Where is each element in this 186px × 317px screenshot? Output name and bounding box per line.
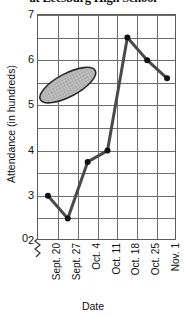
y-axis-title: Attendance (in hundreds) bbox=[5, 44, 17, 204]
x-axis-labels: Sept. 20Sept. 27Oct. 4Oct. 11Oct. 18Oct.… bbox=[37, 243, 176, 303]
chart-root: at Leesburg High School 7 6 5 4 3 2 Atte… bbox=[0, 0, 186, 317]
x-tick-label: Oct. 4 bbox=[91, 243, 102, 270]
x-tick-label: Oct. 25 bbox=[150, 243, 161, 275]
x-tick-label: Nov. 1 bbox=[170, 243, 181, 271]
data-point bbox=[144, 57, 150, 63]
y-tick-label-2: 2 bbox=[4, 234, 34, 246]
data-point bbox=[65, 215, 71, 221]
data-series-layer bbox=[38, 15, 176, 240]
x-tick-label: Oct. 18 bbox=[130, 243, 141, 275]
data-point bbox=[85, 159, 91, 165]
x-axis-title: Date bbox=[0, 300, 186, 312]
y-tick-label-7: 7 bbox=[4, 8, 34, 20]
data-point bbox=[45, 193, 51, 199]
data-point bbox=[124, 35, 130, 41]
x-tick-label: Oct. 11 bbox=[111, 243, 122, 275]
series-line bbox=[48, 38, 167, 219]
x-tick-label: Sept. 27 bbox=[71, 243, 82, 280]
data-point bbox=[105, 148, 111, 154]
plot-area bbox=[37, 14, 176, 240]
origin-label: 0 bbox=[22, 232, 28, 244]
data-point bbox=[164, 75, 170, 81]
x-tick-label: Sept. 20 bbox=[51, 243, 62, 280]
